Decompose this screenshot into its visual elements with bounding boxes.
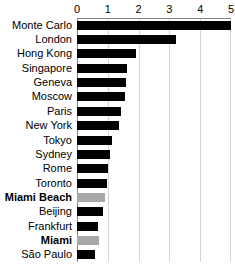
bar-14 xyxy=(77,222,98,231)
bar-16 xyxy=(77,250,95,259)
category-label-6: Paris xyxy=(47,105,72,118)
x-tick-label-0: 0 xyxy=(69,2,85,16)
category-label-13: Beijing xyxy=(39,205,72,218)
bar-series xyxy=(77,18,231,262)
bar-8 xyxy=(77,136,112,145)
category-label-9: Sydney xyxy=(35,148,72,161)
bar-4 xyxy=(77,78,126,87)
category-label-0: Monte Carlo xyxy=(12,19,72,32)
category-label-15: Miami xyxy=(41,234,72,247)
bar-7 xyxy=(77,121,119,130)
bar-0 xyxy=(77,21,231,30)
bar-15 xyxy=(77,236,99,245)
category-label-4: Geneva xyxy=(33,76,72,89)
category-label-16: São Paulo xyxy=(21,248,72,261)
category-axis-labels: Monte CarloLondonHong KongSingaporeGenev… xyxy=(0,18,75,262)
bar-11 xyxy=(77,179,107,188)
category-label-8: Tokyo xyxy=(43,134,72,147)
bar-9 xyxy=(77,150,110,159)
category-label-11: Toronto xyxy=(35,177,72,190)
x-tick-label-2: 2 xyxy=(131,2,147,16)
category-label-1: London xyxy=(35,33,72,46)
category-label-5: Moscow xyxy=(32,90,72,103)
bar-12 xyxy=(77,193,105,202)
bar-1 xyxy=(77,35,176,44)
bar-3 xyxy=(77,64,127,73)
category-label-2: Hong Kong xyxy=(17,47,72,60)
bar-13 xyxy=(77,207,103,216)
bar-10 xyxy=(77,164,108,173)
x-tick-label-3: 3 xyxy=(161,2,177,16)
category-label-12: Miami Beach xyxy=(5,191,72,204)
x-tick-label-1: 1 xyxy=(100,2,116,16)
x-tick-label-4: 4 xyxy=(192,2,208,16)
bar-5 xyxy=(77,92,125,101)
bar-chart: 012345 Monte CarloLondonHong KongSingapo… xyxy=(0,0,235,264)
category-label-14: Frankfurt xyxy=(28,220,72,233)
bar-2 xyxy=(77,49,136,58)
category-label-7: New York xyxy=(26,119,72,132)
category-label-10: Rome xyxy=(43,162,72,175)
x-axis-tick-labels: 012345 xyxy=(0,2,235,18)
x-tick-label-5: 5 xyxy=(223,2,235,16)
bar-6 xyxy=(77,107,121,116)
category-label-3: Singapore xyxy=(22,62,72,75)
